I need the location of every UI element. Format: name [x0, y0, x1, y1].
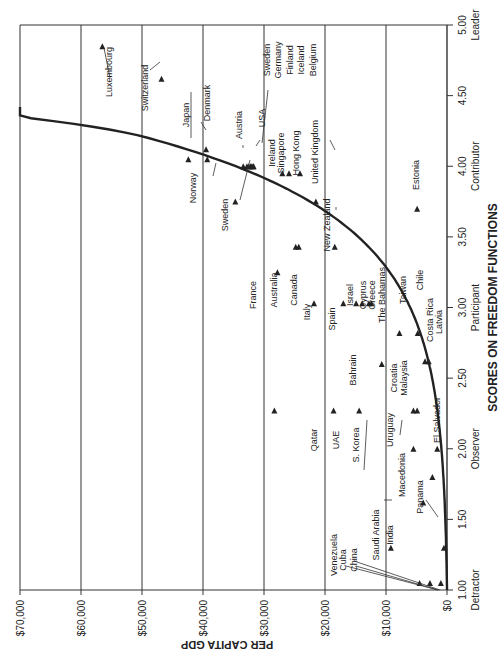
country-label: Singapore [276, 132, 286, 173]
country-label: Japan [181, 103, 191, 128]
country-label: Macedonia [397, 453, 407, 497]
data-point-marker [410, 446, 416, 452]
gdp-tick-label: $10,000 [381, 600, 392, 637]
country-label: S. Korea [351, 427, 361, 462]
leader-line [346, 566, 438, 590]
leader-line [150, 62, 160, 70]
freedom-gdp-chart: $0$10,000$20,000$30,000$40,000$50,000$60… [0, 0, 504, 671]
score-tick-label: 3.50 [457, 227, 468, 247]
chart-canvas: $0$10,000$20,000$30,000$40,000$50,000$60… [0, 0, 504, 671]
country-label: Canada [289, 274, 299, 306]
leader-line [256, 140, 260, 146]
country-label: New Zealand [322, 198, 332, 251]
country-label: Latvia [434, 310, 444, 334]
gdp-tick-label: $60,000 [76, 600, 87, 637]
score-tick-sublabel: Leader [470, 9, 481, 41]
leader-line [364, 420, 367, 470]
data-point-marker [313, 199, 319, 205]
data-point-marker [379, 361, 385, 367]
gdp-tick-label: $50,000 [137, 600, 148, 637]
country-label: Croatia [389, 363, 399, 392]
country-label: Finland [285, 45, 295, 75]
leader-line [213, 163, 216, 176]
data-point-marker [332, 244, 338, 250]
trend-curve [20, 107, 447, 590]
data-point-marker [410, 408, 416, 414]
data-point-marker [429, 474, 435, 480]
country-label: Spain [327, 307, 337, 330]
gdp-tick-label: $0 [442, 600, 453, 612]
score-tick-label: 4.50 [457, 85, 468, 105]
data-point-marker [396, 330, 402, 336]
country-label: UAE [331, 431, 341, 450]
score-tick-sublabel: Contributor [470, 141, 481, 191]
country-label: Panama [415, 480, 425, 514]
country-label: Italy [302, 303, 312, 320]
country-label: Sweden [220, 199, 230, 232]
data-point-marker [356, 408, 362, 414]
data-point-marker [427, 580, 433, 586]
gdp-axis-title: PER CAPITA GDP [181, 639, 273, 651]
country-label: The Bahamas [377, 266, 387, 323]
country-label: Denmark [202, 84, 212, 121]
data-point-marker [203, 146, 209, 152]
data-point-marker [185, 156, 191, 162]
country-label: Saudi Arabia [371, 509, 381, 560]
score-tick-label: 2.00 [457, 439, 468, 459]
data-point-marker [414, 206, 420, 212]
score-tick-label: 3.00 [457, 297, 468, 317]
country-label: Taiwan [398, 276, 408, 304]
country-label: Chile [415, 270, 425, 291]
score-axis-title: SCORES ON FREEDOM FUNCTIONS [486, 203, 500, 412]
data-point-marker [331, 408, 337, 414]
country-label: Belgium [308, 44, 318, 77]
country-label: Austria [234, 111, 244, 139]
leader-line [354, 561, 440, 590]
country-label: Israel [345, 284, 355, 306]
gdp-tick-label: $20,000 [320, 600, 331, 637]
score-tick-sublabel: Observer [470, 428, 481, 470]
score-tick-sublabel: Participant [470, 284, 481, 331]
score-tick-label: 4.00 [457, 156, 468, 176]
country-label: India [385, 525, 395, 545]
score-tick-label: 1.00 [457, 580, 468, 600]
country-label: Qatar [309, 429, 319, 452]
country-label: Australia [269, 272, 279, 307]
country-label: Hong Kong [291, 130, 301, 175]
gdp-tick-label: $40,000 [198, 600, 209, 637]
data-point-marker [159, 76, 165, 82]
score-tick-label: 5.00 [457, 15, 468, 35]
country-label: Germany [273, 41, 283, 79]
gdp-tick-label: $30,000 [259, 600, 270, 637]
leader-line [330, 140, 335, 150]
leader-line [240, 160, 250, 200]
country-label: Sweden [262, 44, 272, 77]
leader-line [400, 420, 402, 435]
country-label: Malaysia [399, 360, 409, 396]
data-point-marker [426, 358, 432, 364]
country-label: Cuba [338, 549, 348, 571]
country-label: Estonia [411, 160, 421, 190]
gdp-tick-label: $70,000 [15, 600, 26, 637]
score-tick-sublabel: Detractor [470, 569, 481, 611]
country-label: Iceland [296, 45, 306, 74]
country-label: Bahrain [348, 354, 358, 385]
score-tick-label: 1.50 [457, 509, 468, 529]
country-label: Uruguay [385, 412, 395, 447]
data-point-marker [438, 580, 444, 586]
country-label: United Kingdom [310, 120, 320, 184]
score-tick-label: 2.50 [457, 368, 468, 388]
country-label: Switzerland [140, 65, 150, 112]
country-label: Greece [367, 280, 377, 310]
country-label: Norway [188, 172, 198, 203]
leader-line [356, 566, 438, 590]
leader-line [426, 500, 438, 517]
data-point-marker [434, 446, 440, 452]
country-label: El Salvador [432, 397, 442, 443]
data-point-marker [271, 408, 277, 414]
country-label: France [248, 281, 258, 309]
data-point-marker [232, 199, 238, 205]
